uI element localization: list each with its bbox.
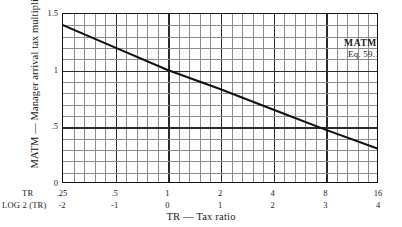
gridline-horizontal — [63, 173, 377, 174]
x-axis-tick-label-log2: 2 — [260, 201, 286, 210]
gridline-horizontal — [63, 82, 377, 83]
gridline-vertical — [263, 14, 264, 182]
chart-annotation: MATMT Eq. 59.1 — [331, 38, 378, 60]
gridline-vertical — [74, 14, 75, 182]
gridline-vertical — [221, 14, 222, 182]
gridline-horizontal — [63, 161, 377, 162]
annotation-equation: Eq. 59.1 — [331, 49, 378, 60]
x-axis-tick-label-log2: 4 — [365, 201, 391, 210]
x-axis-tick-label-tr: .5 — [102, 189, 128, 198]
gridline-vertical — [179, 14, 180, 182]
gridline-vertical — [316, 14, 317, 182]
gridline-vertical — [210, 14, 211, 182]
x-axis-tick-label-log2: -1 — [102, 201, 128, 210]
y-axis-tick-label: .5 — [32, 122, 58, 131]
series-matmt-line — [63, 14, 377, 182]
gridline-horizontal — [63, 93, 377, 94]
gridline-vertical — [84, 14, 85, 182]
y-axis-tick-label: 1 — [32, 66, 58, 75]
x-axis-tick-label-tr: 1 — [154, 189, 180, 198]
x-axis-tick-label-log2: 3 — [312, 201, 338, 210]
gridline-vertical — [158, 14, 159, 182]
series-layer — [63, 14, 377, 182]
x-axis-tick-label-log2: 0 — [154, 201, 180, 210]
gridline-vertical — [295, 14, 296, 182]
gridline-vertical — [105, 14, 106, 182]
gridline-vertical — [200, 14, 201, 182]
x-axis-title: TR — Tax ratio — [0, 211, 402, 222]
x-axis-row-key-log2: LOG 2 (TR) — [2, 201, 47, 210]
gridline-horizontal — [63, 105, 377, 106]
x-axis-tick-label-tr: 8 — [312, 189, 338, 198]
x-axis-row-key-tr: TR — [22, 189, 33, 198]
gridline-horizontal — [63, 59, 377, 60]
y-axis-tick-label: 0 — [32, 179, 58, 188]
gridline-horizontal — [63, 150, 377, 151]
gridline-vertical — [284, 14, 285, 182]
chart-figure: MATMT Eq. 59.1 MATM — Manager arrival ta… — [0, 0, 402, 227]
gridline-vertical — [232, 14, 233, 182]
gridline-vertical — [253, 14, 254, 182]
x-axis-tick-label-tr: 2 — [207, 189, 233, 198]
gridline-vertical — [242, 14, 243, 182]
plot-area: MATMT Eq. 59.1 — [62, 13, 378, 183]
x-axis-tick-label-log2: 1 — [207, 201, 233, 210]
gridline-vertical — [326, 14, 327, 182]
y-axis-title: MATM — Manager arrival tax multiplier — [29, 0, 40, 178]
x-axis-tick-label-tr: .25 — [49, 189, 75, 198]
gridline-horizontal — [63, 71, 377, 72]
gridline-vertical — [305, 14, 306, 182]
gridline-vertical — [137, 14, 138, 182]
gridline-horizontal — [63, 48, 377, 49]
gridline-vertical — [126, 14, 127, 182]
gridline-horizontal — [63, 37, 377, 38]
gridline-vertical — [274, 14, 275, 182]
annotation-title: MATMT — [331, 38, 378, 49]
gridline-vertical — [95, 14, 96, 182]
gridline-horizontal — [63, 116, 377, 117]
x-axis-tick-label-log2: -2 — [49, 201, 75, 210]
x-axis-tick-label-tr: 16 — [365, 189, 391, 198]
gridline-vertical — [189, 14, 190, 182]
x-axis-tick-label-tr: 4 — [260, 189, 286, 198]
grid-layer — [63, 14, 377, 182]
gridline-horizontal — [63, 139, 377, 140]
gridline-vertical — [147, 14, 148, 182]
gridline-vertical — [168, 14, 169, 182]
y-axis-tick-label: 1.5 — [32, 9, 58, 18]
gridline-horizontal — [63, 25, 377, 26]
gridline-horizontal — [63, 127, 377, 128]
gridline-vertical — [116, 14, 117, 182]
